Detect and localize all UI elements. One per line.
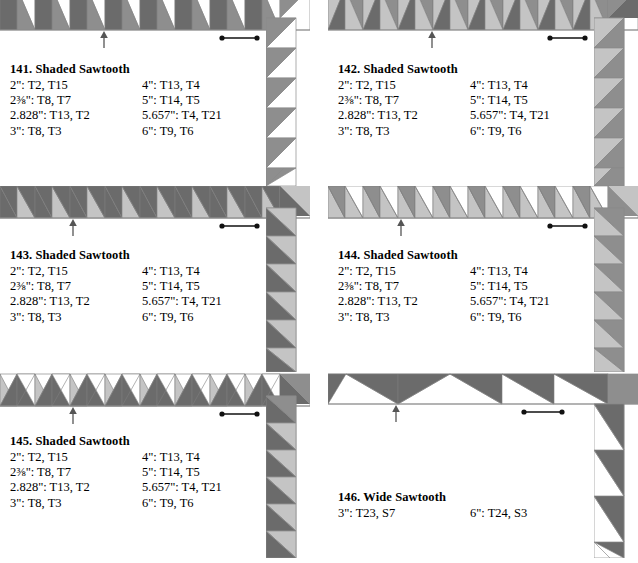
border-artwork-143: [0, 186, 310, 246]
spec-item: 5": T14, T5: [142, 465, 280, 480]
spec-item: 3": T8, T3: [10, 496, 142, 511]
repeat-arrow: [397, 219, 405, 236]
spec-item: 5": T14, T5: [470, 279, 608, 294]
spec-item: 4": T13, T4: [142, 450, 280, 465]
repeat-span-bar: [521, 409, 564, 414]
spec-item: 2.828": T13, T2: [10, 108, 142, 123]
caption-144: 144. Shaded Sawtooth 2": T2, T15 4": T13…: [338, 248, 608, 325]
repeat-arrow: [69, 219, 77, 236]
pattern-block-144: 144. Shaded Sawtooth 2": T2, T15 4": T13…: [328, 186, 638, 372]
border-artwork-141: [0, 0, 310, 60]
pattern-reference-page: 141. Shaded Sawtooth 2": T2, T15 4": T13…: [0, 0, 638, 563]
spec-item: 5.657": T4, T21: [142, 480, 280, 495]
block-title: 144. Shaded Sawtooth: [338, 248, 608, 263]
pattern-block-146: 146. Wide Sawtooth 3": T23, S7 6": T24, …: [328, 372, 638, 558]
border-artwork-vertical-146: [594, 372, 638, 558]
spec-item: 6": T9, T6: [142, 496, 280, 511]
spec-item: 3": T8, T3: [10, 310, 142, 325]
spec-grid: 2": T2, T15 4": T13, T4 2⅜": T8, T7 5": …: [10, 264, 280, 325]
caption-146: 146. Wide Sawtooth 3": T23, S7 6": T24, …: [338, 490, 608, 521]
repeat-arrow: [69, 407, 77, 424]
spec-item: 5": T14, T5: [470, 93, 608, 108]
border-artwork-145: [0, 372, 310, 432]
block-title: 143. Shaded Sawtooth: [10, 248, 280, 263]
spec-item: 2⅜": T8, T7: [338, 93, 470, 108]
spec-item: 4": T13, T4: [470, 264, 608, 279]
repeat-span-bar: [219, 35, 259, 40]
spec-item: 3": T8, T3: [338, 310, 470, 325]
spec-item: 6": T9, T6: [470, 310, 608, 325]
spec-item: 6": T9, T6: [470, 124, 608, 139]
spec-item: 3": T23, S7: [338, 506, 470, 521]
spec-item: 2": T2, T15: [338, 264, 470, 279]
spec-item: 3": T8, T3: [338, 124, 470, 139]
spec-item: 2": T2, T15: [10, 78, 142, 93]
repeat-arrow: [100, 31, 108, 48]
spec-item: 4": T13, T4: [142, 264, 280, 279]
spec-item: 6": T9, T6: [142, 124, 280, 139]
block-title: 146. Wide Sawtooth: [338, 490, 608, 505]
pattern-block-145: 145. Shaded Sawtooth 2": T2, T15 4": T13…: [0, 372, 310, 558]
spec-item: 4": T13, T4: [470, 78, 608, 93]
spec-grid: 2": T2, T15 4": T13, T4 2⅜": T8, T7 5": …: [10, 78, 280, 139]
repeat-span-bar: [219, 223, 259, 228]
caption-145: 145. Shaded Sawtooth 2": T2, T15 4": T13…: [10, 434, 280, 511]
spec-item: 6": T24, S3: [470, 506, 608, 521]
spec-item: 5.657": T4, T21: [470, 294, 608, 309]
repeat-arrow: [428, 31, 436, 48]
repeat-arrow: [392, 405, 400, 422]
spec-item: 2": T2, T15: [338, 78, 470, 93]
spec-item: 5.657": T4, T21: [142, 108, 280, 123]
spec-item: 2": T2, T15: [10, 450, 142, 465]
caption-143: 143. Shaded Sawtooth 2": T2, T15 4": T13…: [10, 248, 280, 325]
spec-item: 2.828": T13, T2: [338, 108, 470, 123]
spec-item: 5": T14, T5: [142, 279, 280, 294]
border-artwork-146: [328, 372, 638, 432]
spec-grid: 2": T2, T15 4": T13, T4 2⅜": T8, T7 5": …: [338, 264, 608, 325]
spec-item: 5.657": T4, T21: [470, 108, 608, 123]
caption-141: 141. Shaded Sawtooth 2": T2, T15 4": T13…: [10, 62, 280, 139]
spec-grid: 3": T23, S7 6": T24, S3: [338, 506, 608, 521]
border-artwork-142: [328, 0, 638, 60]
pattern-block-141: 141. Shaded Sawtooth 2": T2, T15 4": T13…: [0, 0, 310, 186]
spec-item: 5.657": T4, T21: [142, 294, 280, 309]
spec-item: 4": T13, T4: [142, 78, 280, 93]
pattern-block-143: 143. Shaded Sawtooth 2": T2, T15 4": T13…: [0, 186, 310, 372]
spec-item: 2.828": T13, T2: [338, 294, 470, 309]
repeat-span-bar: [547, 35, 587, 40]
repeat-span-bar: [219, 411, 259, 416]
pattern-block-142: 142. Shaded Sawtooth 2": T2, T15 4": T13…: [328, 0, 638, 186]
spec-item: 2⅜": T8, T7: [338, 279, 470, 294]
spec-grid: 2": T2, T15 4": T13, T4 2⅜": T8, T7 5": …: [338, 78, 608, 139]
spec-grid: 2": T2, T15 4": T13, T4 2⅜": T8, T7 5": …: [10, 450, 280, 511]
spec-item: 6": T9, T6: [142, 310, 280, 325]
block-title: 141. Shaded Sawtooth: [10, 62, 280, 77]
spec-item: 2.828": T13, T2: [10, 294, 142, 309]
spec-item: 3": T8, T3: [10, 124, 142, 139]
block-title: 145. Shaded Sawtooth: [10, 434, 280, 449]
spec-item: 2⅜": T8, T7: [10, 279, 142, 294]
spec-item: 2.828": T13, T2: [10, 480, 142, 495]
spec-item: 5": T14, T5: [142, 93, 280, 108]
spec-item: 2⅜": T8, T7: [10, 93, 142, 108]
spec-item: 2": T2, T15: [10, 264, 142, 279]
border-artwork-144: [328, 186, 638, 246]
repeat-span-bar: [547, 223, 587, 228]
block-title: 142. Shaded Sawtooth: [338, 62, 608, 77]
spec-item: 2⅜": T8, T7: [10, 465, 142, 480]
caption-142: 142. Shaded Sawtooth 2": T2, T15 4": T13…: [338, 62, 608, 139]
